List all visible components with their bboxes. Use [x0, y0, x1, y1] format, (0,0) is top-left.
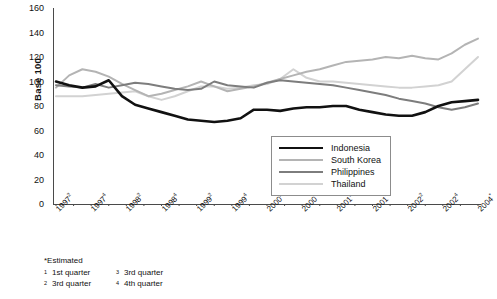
- legend-item: Thailand: [279, 178, 381, 190]
- footnote-item: 44th quarter: [116, 279, 188, 290]
- footnote-estimated: *Estimated: [44, 256, 188, 267]
- y-axis-tick-labels: 160140120100806040200: [10, 0, 44, 299]
- legend-swatch: [279, 183, 323, 185]
- plot-area: [53, 8, 481, 204]
- legend-item: Indonesia: [279, 142, 381, 154]
- y-tick-label: 120: [16, 53, 44, 62]
- y-tick-label: 20: [16, 176, 44, 185]
- footnote-marker: 1: [44, 268, 52, 279]
- footnote-marker: 4: [116, 279, 124, 290]
- y-tick-label: 80: [16, 102, 44, 111]
- footnote-item: 11st quarter: [44, 268, 116, 279]
- footnote-text: 4th quarter: [124, 279, 163, 290]
- footnote-row: 11st quarter33rd quarter: [44, 268, 188, 279]
- footnotes: *Estimated 11st quarter33rd quarter23rd …: [44, 256, 188, 289]
- y-tick-label: 40: [16, 151, 44, 160]
- y-tick-label: 0: [16, 200, 44, 209]
- y-tick-label: 100: [16, 78, 44, 87]
- legend-label: Philippines: [331, 168, 375, 177]
- x-axis-tick-labels: 1997219974199821998419992199942000220004…: [53, 206, 483, 254]
- footnote-text: 3rd quarter: [124, 268, 163, 279]
- footnote-grid: 11st quarter33rd quarter23rd quarter44th…: [44, 268, 188, 290]
- y-tick-label: 160: [16, 4, 44, 13]
- legend-swatch: [279, 159, 323, 161]
- footnote-marker: 3: [116, 268, 124, 279]
- footnote-item: 33rd quarter: [116, 268, 188, 279]
- footnote-row: 23rd quarter44th quarter: [44, 279, 188, 290]
- footnote-marker: 2: [44, 279, 52, 290]
- chart-svg: [53, 8, 481, 206]
- legend-swatch: [279, 171, 323, 173]
- legend-label: Indonesia: [331, 144, 370, 153]
- legend-item: South Korea: [279, 154, 381, 166]
- footnote-text: 1st quarter: [52, 268, 90, 279]
- legend-swatch: [279, 147, 323, 149]
- footnote-text: 3rd quarter: [52, 279, 91, 290]
- legend-label: Thailand: [331, 180, 366, 189]
- y-tick-label: 140: [16, 29, 44, 38]
- legend-label: South Korea: [331, 156, 381, 165]
- y-tick-label: 60: [16, 127, 44, 136]
- footnote-item: 23rd quarter: [44, 279, 116, 290]
- legend-item: Philippines: [279, 166, 381, 178]
- chart-legend: IndonesiaSouth KoreaPhilippinesThailand: [271, 136, 391, 196]
